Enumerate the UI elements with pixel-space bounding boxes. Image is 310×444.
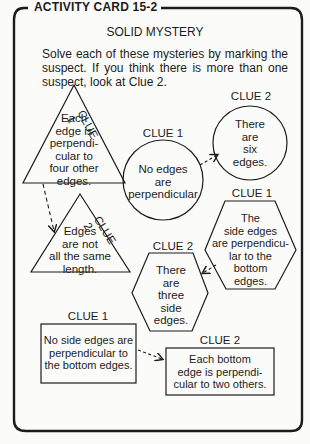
triangle-clue2-text: Edges are not all the same length. bbox=[40, 225, 120, 275]
rectangle-clue2-label: CLUE 2 bbox=[190, 334, 250, 346]
card-instructions: Solve each of these mysteries by marking… bbox=[42, 47, 288, 89]
circle-clue2-text: There are six edges. bbox=[215, 118, 285, 168]
rectangle-dashed-arrow bbox=[138, 350, 162, 359]
hexagon-clue1-text: The side edges are perpendicu- lar to th… bbox=[205, 212, 296, 287]
circle-clue2-label: CLUE 2 bbox=[221, 90, 281, 102]
card-subtitle: SOLID MYSTERY bbox=[0, 25, 310, 39]
rectangle-clue1-label: CLUE 1 bbox=[58, 310, 118, 322]
triangle-clue1-text: Each edge is perpendi- cular to four oth… bbox=[34, 112, 114, 187]
circle-clue1-label: CLUE 1 bbox=[133, 127, 193, 139]
hexagon-clue2-text: There are three side edges. bbox=[136, 264, 206, 327]
circle-clue1-text: No edges are perpendicular bbox=[123, 163, 203, 201]
hexagon-clue1-label: CLUE 1 bbox=[222, 187, 282, 199]
rectangle-clue1-text: No side edges are perpendicular to the b… bbox=[41, 334, 136, 372]
triangle-dashed-arrow bbox=[43, 184, 54, 231]
card-title: ACTIVITY CARD 15-2 bbox=[30, 0, 161, 14]
hexagon-clue2-label: CLUE 2 bbox=[143, 240, 203, 252]
rectangle-clue2-text: Each bottom edge is perpendi- cular to t… bbox=[166, 353, 274, 391]
